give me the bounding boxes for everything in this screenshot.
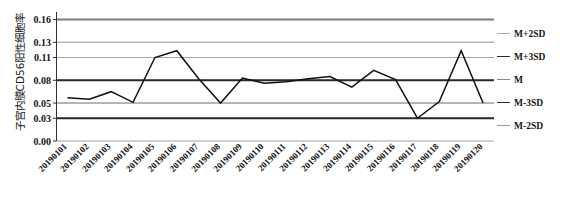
control-limit-lines bbox=[57, 20, 495, 119]
chart-plot-area: 0.160.130.110.080.050.030.00 20190101201… bbox=[0, 0, 563, 205]
control-chart: 子宫内膜CD56阳性细胞率 0.160.130.110.080.050.030.… bbox=[0, 0, 563, 205]
legend-swatch-m-plus-2sd bbox=[497, 33, 510, 34]
legend-label-m-plus-2sd: M+2SD bbox=[514, 29, 545, 39]
legend-swatch-m bbox=[497, 79, 510, 80]
y-axis-tick-label: 0.00 bbox=[34, 136, 52, 147]
chart-legend: M+2SD M+3SD M M-3SD M-2SD bbox=[497, 22, 563, 137]
y-axis-tick-label: 0.11 bbox=[34, 52, 51, 63]
y-axis-tick-label: 0.03 bbox=[34, 113, 52, 124]
legend-swatch-m-minus-2sd bbox=[497, 125, 510, 126]
legend-item[interactable]: M bbox=[497, 68, 563, 91]
legend-label-m: M bbox=[514, 75, 523, 85]
legend-swatch-m-minus-3sd bbox=[497, 102, 510, 103]
y-axis-tick-label: 0.16 bbox=[34, 14, 52, 25]
x-axis-tick-labels: 2019010120190102201901032019010420190105… bbox=[36, 141, 485, 174]
y-axis-tick-labels: 0.160.130.110.080.050.030.00 bbox=[34, 14, 57, 146]
y-axis-tick-label: 0.08 bbox=[34, 75, 52, 86]
legend-item[interactable]: M-3SD bbox=[497, 91, 563, 114]
legend-label-m-plus-3sd: M+3SD bbox=[514, 52, 545, 62]
y-axis-tick-label: 0.13 bbox=[34, 37, 52, 48]
legend-item[interactable]: M-2SD bbox=[497, 114, 563, 137]
legend-item[interactable]: M+2SD bbox=[497, 22, 563, 45]
y-axis-tick-label: 0.05 bbox=[34, 98, 52, 109]
legend-swatch-m-plus-3sd bbox=[497, 56, 510, 57]
legend-label-m-minus-2sd: M-2SD bbox=[514, 121, 543, 131]
legend-label-m-minus-3sd: M-3SD bbox=[514, 98, 543, 108]
legend-item[interactable]: M+3SD bbox=[497, 45, 563, 68]
data-series-line bbox=[67, 51, 483, 119]
